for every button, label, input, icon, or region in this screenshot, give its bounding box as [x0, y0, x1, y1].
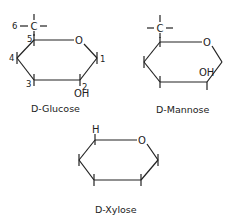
- mannose-bond-o-c1: [212, 46, 222, 62]
- glucose-bond-c3-c4: [17, 58, 34, 80]
- glucose-c6-carbon: C: [31, 21, 38, 32]
- mannose-bond-c3-c4: [144, 62, 160, 82]
- glucose-atom-number-3: 3: [26, 79, 31, 89]
- glucose-bond-o-c1: [84, 44, 97, 58]
- mannose-bond-c4-c5: [144, 42, 160, 62]
- sugar-structures-diagram: C O OH 1 2 3 4 5 6 D-Glucose C O OH D-Ma…: [0, 0, 239, 222]
- glucose-ring-oxygen: O: [75, 35, 83, 46]
- glucose-atom-number-1: 1: [100, 54, 105, 64]
- mannose-label: D-Mannose: [156, 104, 210, 115]
- glucose-label: D-Glucose: [31, 103, 80, 114]
- xylose-c5-hydrogen: H: [92, 124, 100, 135]
- xylose-bond-c3-c4: [79, 160, 94, 180]
- xylose-label: D-Xylose: [95, 204, 137, 215]
- xylose-ring-oxygen: O: [138, 135, 146, 146]
- mannose-c6-carbon: C: [157, 23, 164, 34]
- glucose-atom-number-6: 6: [12, 21, 17, 31]
- glucose-structure: C O OH 1 2 3 4 5 6 D-Glucose: [9, 14, 105, 114]
- glucose-atom-number-5: 5: [27, 34, 32, 44]
- xylose-structure: H O D-Xylose: [79, 124, 158, 215]
- xylose-bond-c4-c5: [79, 140, 95, 160]
- xylose-bond-c1-c2: [141, 160, 158, 180]
- glucose-atom-number-2: 2: [82, 82, 87, 92]
- xylose-bond-o-c1: [147, 144, 158, 160]
- glucose-bond-c1-c2: [80, 58, 97, 80]
- mannose-structure: C O OH D-Mannose: [144, 15, 222, 115]
- mannose-c2-hydroxyl: OH: [199, 67, 214, 78]
- glucose-atom-number-4: 4: [9, 53, 14, 63]
- mannose-ring-oxygen: O: [203, 37, 211, 48]
